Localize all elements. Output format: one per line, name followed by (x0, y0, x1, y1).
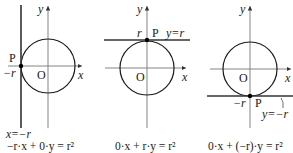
general-equation: −r·x + 0·y = r² (7, 140, 75, 153)
general-equation: 0·x + (−r)·y = r² (208, 140, 283, 153)
origin-label: O (136, 70, 145, 84)
tangent-point (248, 94, 252, 98)
intercept-label: −r (233, 96, 246, 110)
panel-top: r P y=r O x y 0·x + r·y = r² (104, 2, 190, 153)
x-axis-label: x (77, 68, 84, 82)
point-label: P (152, 26, 159, 40)
y-axis-label: y (239, 2, 246, 16)
x-axis-label: x (284, 71, 291, 85)
point-label: P (255, 96, 262, 110)
panel-left: P −r O x y x=−r −r·x + 0·y = r² (3, 2, 84, 153)
tangent-equation-label: x=−r (5, 128, 32, 140)
tangent-lines-diagram: P −r O x y x=−r −r·x + 0·y = r² r P y=r … (0, 0, 293, 153)
panel-bottom: −r P y=−r O x y 0·x + (−r)·y = r² (207, 2, 293, 153)
tangent-equation-label: y=−r (261, 107, 289, 121)
tangent-equation-label: y=r (165, 26, 184, 40)
intercept-label: −r (3, 66, 16, 80)
x-axis-label: x (181, 70, 188, 84)
y-axis-label: y (37, 2, 44, 16)
tangent-point (145, 38, 149, 42)
origin-label: O (239, 71, 248, 85)
origin-label: O (37, 68, 46, 82)
general-equation: 0·x + r·y = r² (115, 140, 176, 153)
point-label: P (9, 51, 16, 65)
intercept-label: r (137, 26, 142, 40)
tangent-point (19, 64, 23, 68)
y-axis-label: y (136, 2, 143, 16)
